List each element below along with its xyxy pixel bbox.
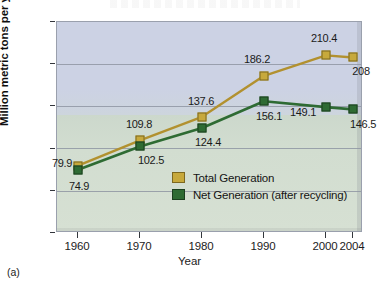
marker-net-1970 [136,142,145,151]
plot-area: Total Generation Net Generation (after r… [56,21,362,232]
value-label-net-1960: 74.9 [69,180,89,192]
x-tick-label-1990: 1990 [251,240,276,252]
y-tick-mark-150 [50,105,55,106]
legend-label-total: Total Generation [193,172,274,184]
x-tick-label-1960: 1960 [65,240,90,252]
value-label-total-1970: 109.8 [126,118,152,130]
figure-caption: (a) [7,266,20,278]
y-axis-label: Million metric tons per year [0,0,10,126]
figure-panel: Million metric tons per year 250 200 150… [0,0,379,293]
value-label-net-2004: 146.5 [350,118,376,130]
x-tick-label-2000: 2000 [313,240,338,252]
y-tick-mark-50 [50,190,55,191]
x-tick-mark-1980 [201,232,202,238]
x-tick-mark-2000 [325,232,326,238]
y-tick-mark-200 [50,63,55,64]
value-label-net-1990: 156.1 [256,110,282,122]
marker-net-1960 [74,165,83,174]
x-tick-label-1980: 1980 [189,240,214,252]
x-tick-mark-1990 [263,232,264,238]
cropped-title-artifact [110,0,300,8]
y-tick-mark-0 [50,232,55,233]
marker-net-2000 [322,103,331,112]
marker-total-1990 [260,71,269,80]
legend-swatch-net [172,189,185,200]
x-tick-mark-2004 [352,232,353,238]
marker-net-2004 [349,105,358,114]
legend-item-total-generation: Total Generation [172,170,347,185]
legend-label-net: Net Generation (after recycling) [193,189,347,201]
value-label-net-1980: 124.4 [195,136,221,148]
marker-total-1980 [198,112,207,121]
chart-legend: Total Generation Net Generation (after r… [172,170,347,204]
marker-net-1980 [198,124,207,133]
value-label-total-2004: 208 [352,65,369,77]
value-label-net-2000: 149.1 [290,106,316,118]
marker-total-2004 [349,53,358,62]
value-label-total-1980: 137.6 [188,95,214,107]
value-label-total-2000: 210.4 [311,32,337,44]
x-axis-label: Year [0,255,379,267]
x-tick-mark-1960 [77,232,78,238]
marker-total-2000 [322,51,331,60]
legend-item-net-generation: Net Generation (after recycling) [172,187,347,202]
value-label-net-1970: 102.5 [138,154,164,166]
x-tick-label-1970: 1970 [127,240,152,252]
x-tick-label-2004: 2004 [340,240,365,252]
value-label-total-1960: 79.9 [52,157,72,169]
y-tick-mark-100 [50,148,55,149]
x-tick-mark-1970 [139,232,140,238]
y-tick-mark-250 [50,21,55,22]
marker-net-1990 [260,97,269,106]
legend-swatch-total [172,172,185,183]
value-label-total-1990: 186.2 [244,53,270,65]
